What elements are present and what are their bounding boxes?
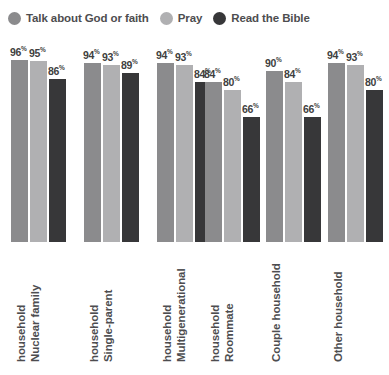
- circle-swatch-icon: [213, 12, 226, 25]
- category-label-line: household: [209, 303, 223, 362]
- category-label-line: Single-parent: [102, 290, 116, 362]
- bar-column[interactable]: 80%: [366, 30, 383, 242]
- category-axis-labels: Nuclear familyhouseholdSingle-parenthous…: [0, 244, 389, 369]
- bar[interactable]: [285, 82, 302, 242]
- bar-column[interactable]: 93%: [347, 30, 364, 242]
- circle-swatch-icon: [160, 12, 173, 25]
- bar-column[interactable]: 89%: [122, 30, 139, 242]
- bar[interactable]: [347, 65, 364, 242]
- bar-column[interactable]: 96%: [11, 30, 28, 242]
- bar-column[interactable]: 80%: [224, 30, 241, 242]
- bar-column[interactable]: 94%: [157, 30, 174, 242]
- bar[interactable]: [266, 71, 283, 242]
- category-label-line: Couple household: [270, 263, 284, 362]
- bar-value-label: 89%: [121, 56, 151, 71]
- category-label-line: household: [88, 290, 102, 362]
- bar-column[interactable]: 93%: [176, 30, 193, 242]
- bar-column[interactable]: 94%: [328, 30, 345, 242]
- bar-column[interactable]: 86%: [49, 30, 66, 242]
- bar-column[interactable]: 90%: [266, 30, 283, 242]
- bar-value-label: 80%: [365, 73, 389, 88]
- legend-item-label: Talk about God or faith: [26, 12, 149, 25]
- bar-column[interactable]: 94%: [84, 30, 101, 242]
- bar[interactable]: [84, 63, 101, 242]
- bar[interactable]: [176, 65, 193, 242]
- bar[interactable]: [11, 60, 28, 242]
- bar-column[interactable]: 66%: [304, 30, 321, 242]
- bar[interactable]: [157, 63, 174, 242]
- category-label-line: Roommate: [223, 303, 237, 362]
- grouped-bar-chart: Talk about God or faithPrayRead the Bibl…: [0, 0, 389, 375]
- bar-column[interactable]: 93%: [103, 30, 120, 242]
- bar-group-bars: 90%84%66%: [266, 30, 321, 242]
- bar-column[interactable]: 84%: [285, 30, 302, 242]
- category-label-line: Nuclear family: [29, 285, 43, 362]
- bar[interactable]: [328, 63, 345, 242]
- bar-group-bars: 94%93%84%: [157, 30, 212, 242]
- bar-group-bars: 94%93%89%: [84, 30, 139, 242]
- bar[interactable]: [366, 90, 383, 242]
- bar[interactable]: [243, 117, 260, 242]
- category-label-line: Other household: [332, 271, 346, 362]
- bar-column[interactable]: 95%: [30, 30, 47, 242]
- chart-legend: Talk about God or faithPrayRead the Bibl…: [8, 7, 383, 29]
- bar[interactable]: [205, 82, 222, 242]
- bar[interactable]: [224, 90, 241, 242]
- legend-item[interactable]: Pray: [160, 12, 203, 25]
- bar-group-bars: 84%80%66%: [205, 30, 260, 242]
- category-label-line: Multigenerational: [175, 268, 189, 362]
- bar[interactable]: [103, 65, 120, 242]
- legend-item[interactable]: Read the Bible: [213, 12, 309, 25]
- bar-column[interactable]: 84%: [205, 30, 222, 242]
- legend-item-label: Read the Bible: [231, 12, 309, 25]
- legend-item-label: Pray: [178, 12, 203, 25]
- circle-swatch-icon: [8, 12, 21, 25]
- bar-value-label: 86%: [48, 62, 78, 77]
- bar[interactable]: [304, 117, 321, 242]
- bar-column[interactable]: 66%: [243, 30, 260, 242]
- chart-plot-area: 96%95%86%94%93%89%94%93%84%84%80%66%90%8…: [0, 30, 389, 242]
- category-label-line: household: [15, 285, 29, 362]
- bar-group-bars: 94%93%80%: [328, 30, 383, 242]
- bar-group-bars: 96%95%86%: [11, 30, 66, 242]
- legend-item[interactable]: Talk about God or faith: [8, 12, 149, 25]
- bar[interactable]: [49, 79, 66, 242]
- bar[interactable]: [122, 73, 139, 242]
- bar[interactable]: [30, 61, 47, 242]
- category-label-line: household: [161, 268, 175, 362]
